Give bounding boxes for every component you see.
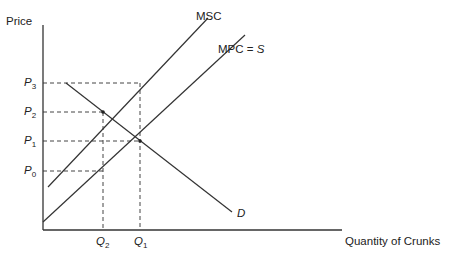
- p1-letter: P: [24, 134, 32, 146]
- supply-symbol: S: [257, 43, 265, 55]
- tick-p2: P2: [24, 106, 36, 118]
- curves: [43, 18, 245, 222]
- intersection-point: [101, 110, 105, 114]
- p2-subscript: 2: [32, 111, 36, 120]
- demand-label: D: [237, 208, 245, 220]
- curve-d: [66, 83, 232, 212]
- curve-mpc-s: [43, 35, 245, 222]
- p0-letter: P: [24, 164, 32, 176]
- q2-letter: Q: [96, 235, 105, 247]
- tick-p3: P3: [24, 77, 36, 89]
- p0-subscript: 0: [32, 170, 36, 179]
- y-axis-label: Price: [6, 16, 32, 28]
- tick-q2: Q2: [96, 236, 109, 248]
- q1-subscript: 1: [143, 241, 147, 250]
- intersection-point: [138, 139, 142, 143]
- msc-label: MSC: [196, 11, 222, 23]
- tick-q1: Q1: [134, 236, 147, 248]
- p1-subscript: 1: [32, 140, 36, 149]
- tick-p0: P0: [24, 165, 36, 177]
- mpc-label: MPC = S: [218, 44, 264, 56]
- p3-subscript: 3: [32, 82, 36, 91]
- tick-p1: P1: [24, 135, 36, 147]
- q1-letter: Q: [134, 235, 143, 247]
- mpc-text: MPC =: [218, 43, 257, 55]
- curve-msc: [48, 18, 208, 187]
- p2-letter: P: [24, 105, 32, 117]
- p3-letter: P: [24, 76, 32, 88]
- x-axis-label: Quantity of Crunks: [345, 236, 440, 248]
- diagram-canvas: [0, 0, 455, 263]
- axes: [43, 25, 342, 230]
- q2-subscript: 2: [105, 241, 109, 250]
